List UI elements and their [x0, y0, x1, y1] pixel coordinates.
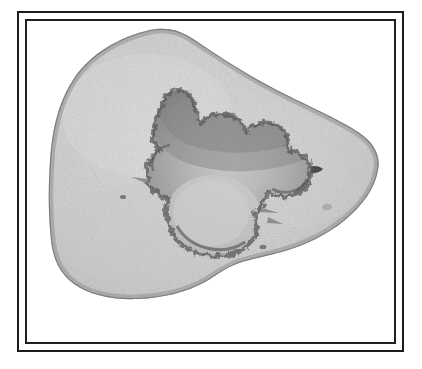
- frame-inner-rule: [25, 19, 396, 344]
- figure-plate: [0, 0, 422, 369]
